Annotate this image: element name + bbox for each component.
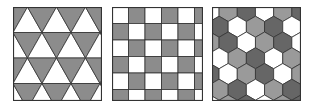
checkerboard-tiling-graphic bbox=[112, 7, 203, 101]
triangle-tiling-panel bbox=[13, 7, 102, 101]
triangle-tiling-graphic bbox=[13, 7, 102, 101]
square-tiling-panel bbox=[112, 7, 203, 101]
hexagon-tiling-panel bbox=[212, 7, 301, 101]
hexagon-tiling-graphic bbox=[212, 7, 301, 101]
